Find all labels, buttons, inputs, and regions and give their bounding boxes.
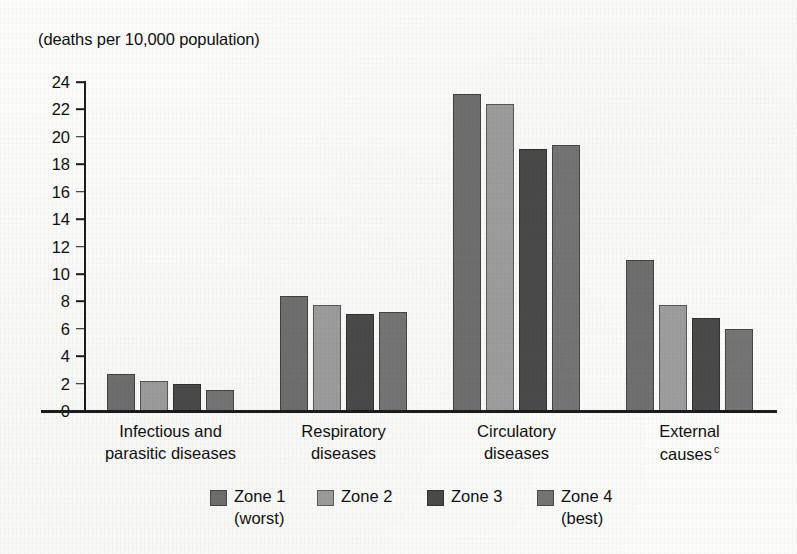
bar	[659, 305, 687, 411]
bar	[692, 318, 720, 411]
bar	[206, 390, 234, 411]
legend-label: Zone 3	[451, 487, 502, 506]
y-tick-label: 4	[30, 347, 70, 366]
plot-area: 242220181614121086420	[84, 82, 774, 411]
y-tick-label: 14	[30, 210, 70, 229]
y-tick-label: 8	[30, 292, 70, 311]
y-tick-label: 2	[30, 374, 70, 393]
y-tick-mark	[76, 218, 84, 220]
y-tick-label: 12	[30, 237, 70, 256]
bar	[626, 260, 654, 411]
chart-legend: Zone 1(worst)Zone 2Zone 3Zone 4(best)	[0, 487, 797, 547]
bar	[725, 329, 753, 411]
bar	[552, 145, 580, 411]
bar-chart-figure: (deaths per 10,000 population) 242220181…	[0, 0, 797, 554]
bar	[280, 296, 308, 411]
y-tick-label: 22	[30, 100, 70, 119]
y-tick-mark	[76, 355, 84, 357]
bar-group	[453, 82, 585, 411]
bars-layer	[84, 82, 774, 411]
y-tick-label: 18	[30, 155, 70, 174]
y-tick-label: 10	[30, 264, 70, 283]
y-tick-mark	[76, 109, 84, 111]
y-tick-mark	[76, 81, 84, 83]
y-tick-label: 20	[30, 127, 70, 146]
bar	[346, 314, 374, 411]
y-tick-mark	[76, 273, 84, 275]
chart-axis-title: (deaths per 10,000 population)	[38, 30, 260, 49]
legend-color-swatch	[427, 490, 444, 506]
bar	[140, 381, 168, 411]
bar	[313, 305, 341, 411]
y-tick-label: 16	[30, 182, 70, 201]
legend-sublabel: (best)	[561, 509, 603, 528]
x-axis-category-label: Externalcausesc	[570, 421, 797, 465]
y-axis-line	[84, 81, 86, 412]
y-tick-mark	[76, 191, 84, 193]
y-tick-label: 6	[30, 319, 70, 338]
y-tick-mark	[76, 328, 84, 330]
y-tick-label: 24	[30, 73, 70, 92]
y-tick-mark	[76, 136, 84, 138]
y-tick-mark	[76, 301, 84, 303]
legend-color-swatch	[210, 490, 227, 506]
bar-group	[626, 82, 758, 411]
legend-color-swatch	[317, 490, 334, 506]
y-tick-mark	[76, 163, 84, 165]
legend-color-swatch	[537, 490, 554, 506]
legend-label: Zone 2	[341, 487, 392, 506]
bar	[486, 104, 514, 411]
legend-label: Zone 1	[234, 487, 285, 506]
bar	[173, 384, 201, 411]
bar-group	[107, 82, 239, 411]
bar	[453, 94, 481, 411]
y-tick-mark	[76, 246, 84, 248]
y-tick-mark	[76, 383, 84, 385]
legend-sublabel: (worst)	[234, 509, 284, 528]
bar	[519, 149, 547, 411]
bar	[107, 374, 135, 411]
bar	[379, 312, 407, 411]
x-axis-line	[41, 410, 777, 413]
legend-label: Zone 4	[561, 487, 612, 506]
bar-group	[280, 82, 412, 411]
x-axis-category-labels: Infectious andparasitic diseasesRespirat…	[84, 421, 774, 483]
